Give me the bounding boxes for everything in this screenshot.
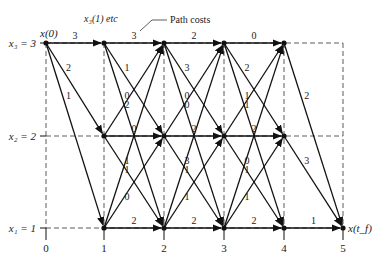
stage-axis-labels: 012345 [43, 242, 346, 254]
edge-cost-label: 0 [132, 123, 137, 134]
state-node [340, 225, 345, 230]
end-label: x(t_f) [347, 222, 372, 235]
edge-cost-label: 2 [245, 62, 250, 73]
state-node [101, 225, 106, 230]
path-edge [284, 136, 341, 225]
path-costs-leader-line [140, 20, 167, 31]
edge-cost-label: 2 [192, 30, 197, 41]
edge-cost-label: 2 [192, 123, 197, 134]
edge-cost-label: 2 [304, 90, 309, 101]
path-edge [164, 136, 222, 225]
edge-cost-label: 2 [252, 215, 257, 226]
state-node [221, 40, 226, 45]
state-label: x₁ = 1 [8, 222, 36, 234]
state-node [161, 40, 166, 45]
stage-label: 0 [43, 242, 49, 254]
path-edge [104, 46, 163, 228]
state-node [221, 225, 226, 230]
state-axis-labels: x₁ = 1x₂ = 2x₃ = 3 [8, 37, 37, 234]
edge-cost-label: 1 [185, 164, 190, 175]
start-label: x(0) [39, 27, 58, 40]
edge-cost-label: 1 [311, 215, 316, 226]
edge-cost-label: 1 [245, 99, 250, 110]
edge-cost-label: 1 [245, 191, 250, 202]
edge-cost-label: 2 [66, 62, 71, 73]
path-edge [164, 43, 223, 225]
edge-cost-label: 2 [252, 123, 257, 134]
path-edge [104, 43, 162, 133]
edge-cost-label: 0 [185, 99, 190, 110]
state-label: x₃ = 3 [8, 37, 37, 49]
path-edge [224, 46, 283, 228]
path-edge [104, 43, 163, 225]
stage-state-annotation: x₃(1) etc [83, 13, 118, 25]
state-node [43, 40, 48, 45]
edge-cost-label: 3 [132, 30, 137, 41]
edge-cost-label: 2 [132, 215, 137, 226]
path-edge [164, 43, 222, 133]
path-edge [164, 46, 223, 228]
stage-label: 3 [221, 242, 227, 254]
path-edge [224, 43, 282, 133]
state-node [281, 133, 286, 138]
edge-cost-label: 2 [125, 99, 130, 110]
edge-cost-label: 1 [125, 164, 130, 175]
stage-label: 1 [101, 242, 107, 254]
edge-cost-label: 3 [73, 30, 78, 41]
stage-label: 4 [281, 242, 287, 254]
state-node [161, 225, 166, 230]
state-label: x₂ = 2 [8, 130, 37, 142]
stage-label: 5 [340, 242, 346, 254]
path-costs-annotation: Path costs [170, 14, 210, 25]
edge-cost-label: 0 [252, 30, 257, 41]
state-node [221, 133, 226, 138]
edge-cost-label: 1 [125, 62, 130, 73]
path-edge [284, 43, 342, 225]
edge-cost-label: 0 [125, 191, 130, 202]
path-edge [46, 43, 102, 133]
path-edge [46, 43, 103, 225]
edge-cost-label: 1 [245, 164, 250, 175]
edge-cost-label: 1 [66, 90, 71, 101]
state-node [101, 133, 106, 138]
edge-cost-label: 3 [185, 62, 190, 73]
stage-label: 2 [161, 242, 167, 254]
path-edges [46, 43, 342, 228]
path-edge [224, 136, 282, 225]
state-node [101, 40, 106, 45]
path-edge [224, 43, 283, 225]
edge-cost-label: 3 [304, 155, 309, 166]
path-edge [104, 136, 162, 225]
dynamic-programming-path-graph: 321310201102230023112021120112231 x₁ = 1… [0, 0, 377, 268]
state-node [161, 133, 166, 138]
edge-cost-label: 2 [192, 215, 197, 226]
state-node [281, 40, 286, 45]
state-node [281, 225, 286, 230]
edge-cost-label: 1 [185, 191, 190, 202]
